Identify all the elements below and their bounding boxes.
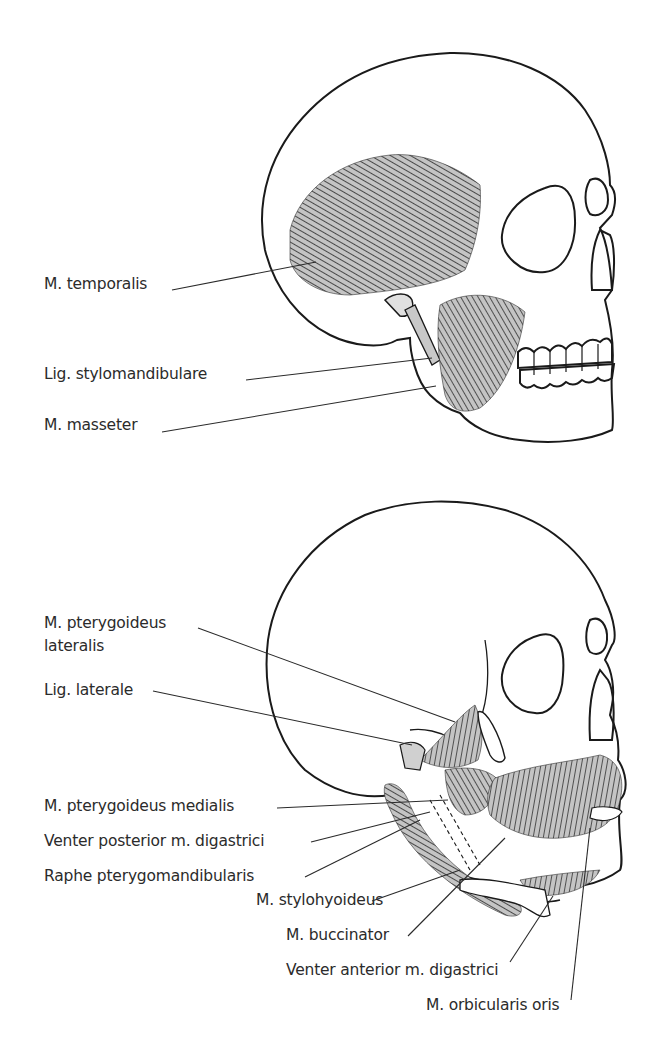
masseter-muscle xyxy=(438,295,525,411)
label-stylohyoideus: M. stylohyoideus xyxy=(256,891,383,910)
label-raphe: Raphe pterygomandibularis xyxy=(44,867,254,886)
label-stylomandibulare: Lig. stylomandibulare xyxy=(44,365,207,384)
label-temporalis: M. temporalis xyxy=(44,275,147,294)
pterygoideus-lateralis-muscle xyxy=(420,705,482,768)
stylomandibular-ligament xyxy=(405,305,440,365)
label-pterygoideus-lateralis-1: M. pterygoideus xyxy=(44,614,166,633)
label-venter-posterior: Venter posterior m. digastrici xyxy=(44,832,264,851)
anatomy-figure: M. temporalis Lig. stylomandibulare M. m… xyxy=(0,0,670,1042)
temporalis-muscle xyxy=(290,155,480,295)
label-buccinator: M. buccinator xyxy=(286,926,389,945)
label-lig-laterale: Lig. laterale xyxy=(44,681,133,700)
lateral-ligament xyxy=(400,742,425,770)
label-pterygoideus-lateralis-2: lateralis xyxy=(44,637,104,656)
lips xyxy=(590,807,622,821)
label-masseter: M. masseter xyxy=(44,416,137,435)
label-pterygoideus-medialis: M. pterygoideus medialis xyxy=(44,797,234,816)
buccinator-orbicularis-muscle xyxy=(488,755,622,838)
label-orbicularis-oris: M. orbicularis oris xyxy=(426,996,560,1015)
lower-skull xyxy=(267,502,626,902)
label-venter-anterior: Venter anterior m. digastrici xyxy=(286,961,498,980)
